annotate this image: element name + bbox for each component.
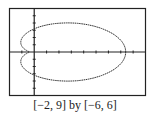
axes [10,9,146,96]
graph-window [0,0,150,98]
window-caption: [−2, 9] by [−6, 6] [0,98,150,113]
